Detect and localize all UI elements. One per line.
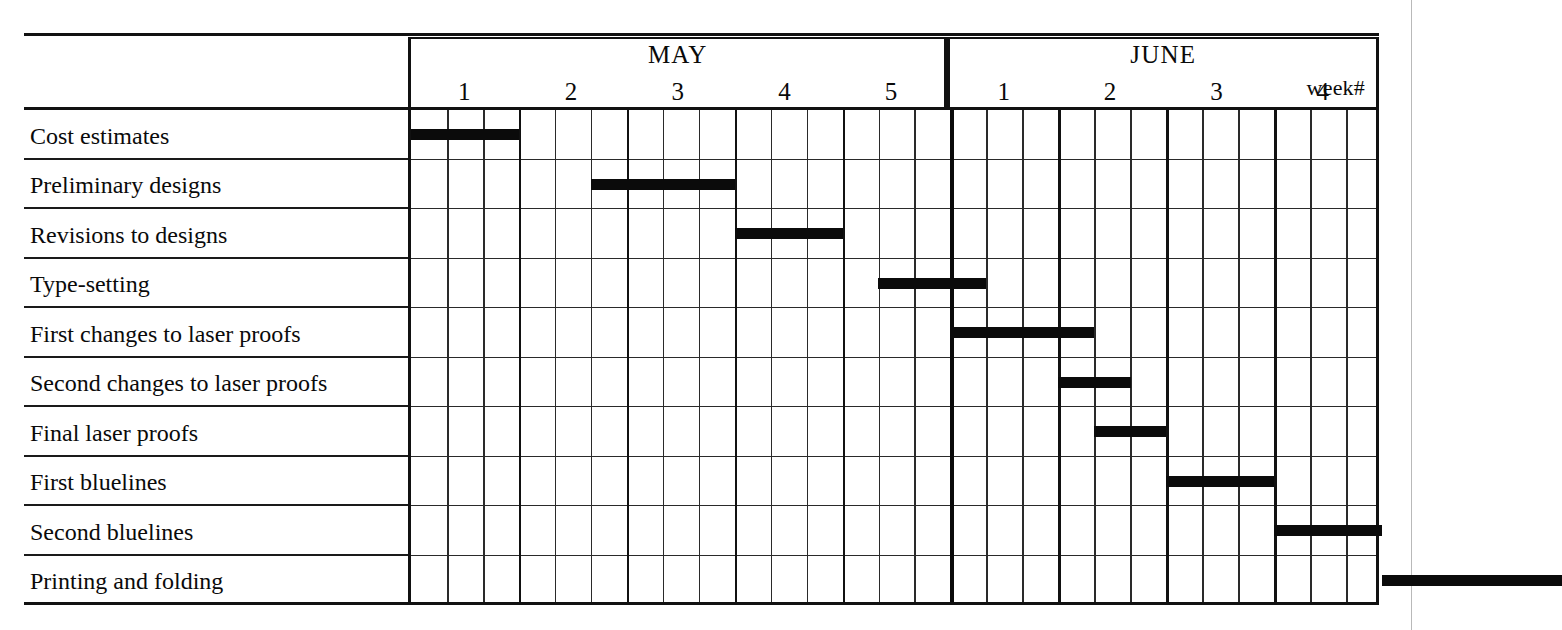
- week-number-may-5: 5: [838, 78, 945, 106]
- timeline-grid: [408, 110, 1379, 605]
- task-row-label[interactable]: Final laser proofs: [24, 407, 408, 457]
- week-number-june-1: 1: [950, 78, 1056, 106]
- week-number-june-4: 4: [1270, 78, 1376, 106]
- chart-body: Cost estimatesPreliminary designsRevisio…: [24, 110, 1379, 605]
- task-name-text: Printing and folding: [30, 569, 223, 593]
- task-name-text: Type-setting: [30, 272, 150, 296]
- month-name-label: JUNE: [950, 41, 1376, 69]
- task-name-text: Final laser proofs: [30, 421, 198, 445]
- gantt-bar[interactable]: [1382, 575, 1562, 586]
- week-number-may-4: 4: [731, 78, 838, 106]
- task-name-text: Preliminary designs: [30, 173, 221, 197]
- task-row-label[interactable]: Cost estimates: [24, 110, 408, 160]
- gantt-bar[interactable]: [878, 278, 986, 289]
- task-name-text: Second bluelines: [30, 520, 193, 544]
- month-header-may: MAY12345: [408, 37, 947, 107]
- gantt-bar[interactable]: [1166, 476, 1274, 487]
- task-name-text: First bluelines: [30, 470, 167, 494]
- page-edge-rule: [1411, 0, 1412, 630]
- task-label-column: Cost estimatesPreliminary designsRevisio…: [24, 110, 408, 605]
- week-number-row: 1234: [950, 78, 1376, 106]
- gantt-chart: week# MAY12345JUNE1234 Cost estimatesPre…: [24, 33, 1379, 605]
- month-header-june: JUNE1234: [947, 37, 1379, 107]
- task-name-text: First changes to laser proofs: [30, 322, 301, 346]
- gantt-bar[interactable]: [1274, 525, 1382, 536]
- task-row-label[interactable]: Second bluelines: [24, 506, 408, 556]
- gantt-bar[interactable]: [1094, 426, 1166, 437]
- task-name-text: Revisions to designs: [30, 223, 227, 247]
- week-number-may-2: 2: [518, 78, 625, 106]
- week-number-may-1: 1: [411, 78, 518, 106]
- week-number-june-3: 3: [1163, 78, 1269, 106]
- month-name-label: MAY: [411, 41, 944, 69]
- gantt-bar[interactable]: [411, 129, 519, 140]
- task-name-text: Cost estimates: [30, 124, 169, 148]
- task-row-label[interactable]: First changes to laser proofs: [24, 308, 408, 358]
- task-row-label[interactable]: Preliminary designs: [24, 160, 408, 210]
- gantt-bar[interactable]: [591, 179, 734, 190]
- task-row-label[interactable]: First bluelines: [24, 457, 408, 507]
- week-number-june-2: 2: [1057, 78, 1163, 106]
- week-number-row: 12345: [411, 78, 944, 106]
- task-row-label[interactable]: Second changes to laser proofs: [24, 358, 408, 408]
- task-row-label[interactable]: Revisions to designs: [24, 209, 408, 259]
- gantt-bar[interactable]: [950, 327, 1093, 338]
- gantt-bar[interactable]: [1058, 377, 1130, 388]
- gantt-bar-group: [411, 110, 1376, 602]
- week-number-may-3: 3: [624, 78, 731, 106]
- task-row-label[interactable]: Type-setting: [24, 259, 408, 309]
- task-row-label[interactable]: Printing and folding: [24, 556, 408, 606]
- chart-header: week# MAY12345JUNE1234: [24, 33, 1379, 110]
- gantt-bar[interactable]: [735, 228, 843, 239]
- task-name-text: Second changes to laser proofs: [30, 371, 327, 395]
